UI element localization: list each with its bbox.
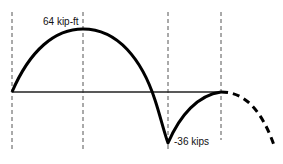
guide-lines bbox=[12, 12, 221, 150]
moment-diagram: 64 kip-ft -36 kips bbox=[0, 0, 283, 164]
max-moment-label: 64 kip-ft bbox=[43, 16, 79, 27]
moment-curve bbox=[12, 29, 221, 143]
moment-curve-dashed bbox=[221, 92, 275, 148]
min-moment-label: -36 kips bbox=[174, 136, 209, 147]
